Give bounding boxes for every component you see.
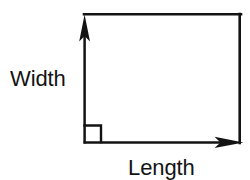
length-label: Length <box>128 155 195 180</box>
rectangle-outline <box>84 14 241 143</box>
width-arrow <box>79 15 90 144</box>
rectangle-dimension-drawing: Width Length <box>0 0 250 180</box>
geometry-diagram: Width Length <box>0 0 250 180</box>
width-label: Width <box>10 66 66 91</box>
right-angle-marker-icon <box>85 126 102 143</box>
right-angle-square <box>85 126 102 143</box>
length-arrow <box>84 137 244 148</box>
